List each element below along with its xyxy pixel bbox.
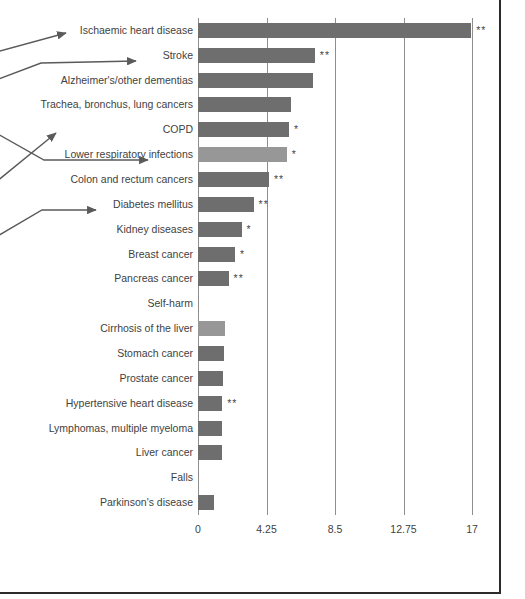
bar-pancreas-cancer <box>198 271 229 286</box>
bar-ischaemic-heart-disease <box>198 23 471 38</box>
significance-marker-pancreas-cancer: ** <box>234 271 244 286</box>
category-label-lower-respiratory-infections: Lower respiratory infections <box>3 148 193 161</box>
bar-parkinson-s-disease <box>198 495 214 510</box>
category-label-trachea-bronchus-lung-cancers: Trachea, bronchus, lung cancers <box>3 98 193 111</box>
category-label-self-harm: Self-harm <box>3 297 193 310</box>
bar-diabetes-mellitus <box>198 197 254 212</box>
significance-marker-lower-respiratory-infections: * <box>292 147 297 162</box>
x-tick-label: 17 <box>466 523 478 535</box>
gridline-0 <box>198 18 199 515</box>
category-label-ischaemic-heart-disease: Ischaemic heart disease <box>3 24 193 37</box>
bar-trachea-bronchus-lung-cancers <box>198 97 291 112</box>
category-label-lymphomas-multiple-myeloma: Lymphomas, multiple myeloma <box>3 422 193 435</box>
x-tick-label: 0 <box>195 523 201 535</box>
x-tick-label: 12.75 <box>390 523 416 535</box>
category-label-prostate-cancer: Prostate cancer <box>3 372 193 385</box>
x-tick-label: 4.25 <box>256 523 276 535</box>
gridline-8-5 <box>335 18 336 515</box>
significance-marker-breast-cancer: * <box>240 247 245 262</box>
gridline-17 <box>472 18 473 515</box>
gridline-4-25 <box>267 18 268 515</box>
significance-marker-diabetes-mellitus: ** <box>259 197 269 212</box>
significance-marker-copd: * <box>294 122 299 137</box>
bar-prostate-cancer <box>198 371 223 386</box>
significance-marker-ischaemic-heart-disease: ** <box>476 23 486 38</box>
significance-marker-hypertensive-heart-disease: ** <box>227 396 237 411</box>
category-label-copd: COPD <box>3 123 193 136</box>
category-label-diabetes-mellitus: Diabetes mellitus <box>3 198 193 211</box>
bar-kidney-diseases <box>198 222 242 237</box>
significance-marker-kidney-diseases: * <box>247 222 252 237</box>
bar-stroke <box>198 48 315 63</box>
category-axis-labels: Ischaemic heart diseaseStrokeAlzheimer's… <box>0 0 193 599</box>
significance-marker-colon-and-rectum-cancers: ** <box>274 172 284 187</box>
x-tick-label: 8.5 <box>328 523 343 535</box>
bar-stomach-cancer <box>198 346 224 361</box>
bar-breast-cancer <box>198 247 235 262</box>
bar-liver-cancer <box>198 445 222 460</box>
category-label-colon-and-rectum-cancers: Colon and rectum cancers <box>3 173 193 186</box>
chart-figure: Ischaemic heart diseaseStrokeAlzheimer's… <box>0 0 525 599</box>
bar-lymphomas-multiple-myeloma <box>198 421 222 436</box>
bar-cirrhosis-of-the-liver <box>198 321 225 336</box>
category-label-hypertensive-heart-disease: Hypertensive heart disease <box>3 397 193 410</box>
bar-hypertensive-heart-disease <box>198 396 222 411</box>
significance-marker-stroke: ** <box>320 48 330 63</box>
bar-colon-and-rectum-cancers <box>198 172 269 187</box>
category-label-falls: Falls <box>3 471 193 484</box>
category-label-pancreas-cancer: Pancreas cancer <box>3 272 193 285</box>
gridline-12-75 <box>404 18 405 515</box>
bar-copd <box>198 122 289 137</box>
bar-lower-respiratory-infections <box>198 147 287 162</box>
category-label-stomach-cancer: Stomach cancer <box>3 347 193 360</box>
category-label-parkinson-s-disease: Parkinson's disease <box>3 496 193 509</box>
category-label-breast-cancer: Breast cancer <box>3 248 193 261</box>
category-label-liver-cancer: Liver cancer <box>3 446 193 459</box>
category-label-stroke: Stroke <box>3 49 193 62</box>
plot-area: **************** <box>198 18 473 515</box>
category-label-cirrhosis-of-the-liver: Cirrhosis of the liver <box>3 322 193 335</box>
figure-frame-right-rule <box>499 0 501 594</box>
bar-alzheimer-s-other-dementias <box>198 73 313 88</box>
category-label-kidney-diseases: Kidney diseases <box>3 223 193 236</box>
category-label-alzheimer-s-other-dementias: Alzheimer's/other dementias <box>3 74 193 87</box>
